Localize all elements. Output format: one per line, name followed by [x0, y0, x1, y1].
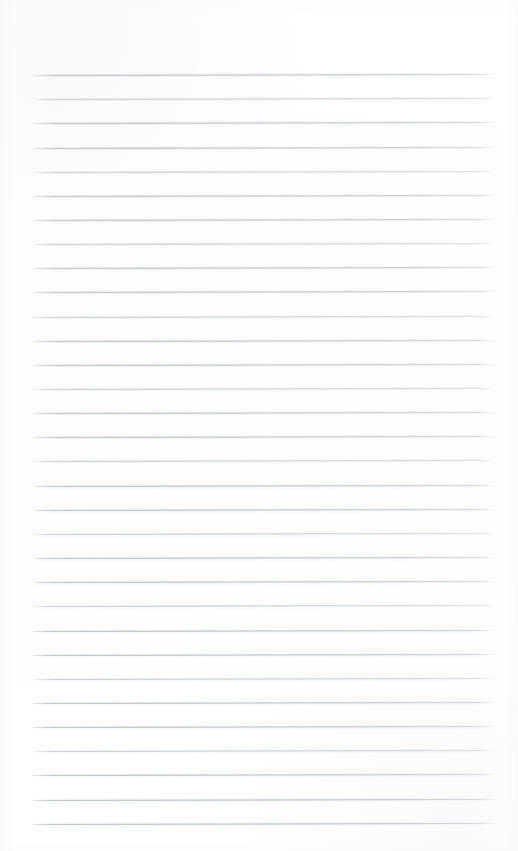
ruled-line — [31, 74, 496, 76]
ruled-line — [31, 195, 496, 197]
ruled-line — [31, 243, 496, 245]
ruled-line — [31, 678, 496, 680]
ruled-line — [31, 291, 496, 293]
ruled-line — [31, 316, 496, 318]
ruled-line — [31, 750, 496, 752]
ruled-line — [31, 702, 496, 704]
ruled-line — [31, 533, 496, 535]
ruled-line — [31, 98, 496, 100]
ruled-line — [31, 485, 496, 487]
ruled-line — [31, 122, 496, 124]
ruled-line — [31, 460, 496, 462]
ruled-line — [31, 654, 496, 656]
ruled-lines-layer — [0, 0, 518, 851]
ruled-line — [31, 726, 496, 728]
ruled-line — [31, 340, 496, 342]
ruled-line — [31, 605, 496, 607]
ruled-line — [31, 388, 496, 390]
ruled-line — [31, 436, 496, 438]
ruled-line — [31, 364, 496, 366]
ruled-line — [31, 823, 496, 825]
ruled-line — [31, 581, 496, 583]
ruled-line — [31, 509, 496, 511]
ruled-line — [31, 557, 496, 559]
notepad-page — [0, 0, 518, 851]
ruled-line — [31, 630, 496, 632]
ruled-line — [31, 799, 496, 801]
ruled-line — [31, 412, 496, 414]
ruled-line — [31, 147, 496, 149]
ruled-line — [31, 267, 496, 269]
ruled-line — [31, 171, 496, 173]
ruled-line — [31, 219, 496, 221]
ruled-line — [31, 774, 496, 776]
